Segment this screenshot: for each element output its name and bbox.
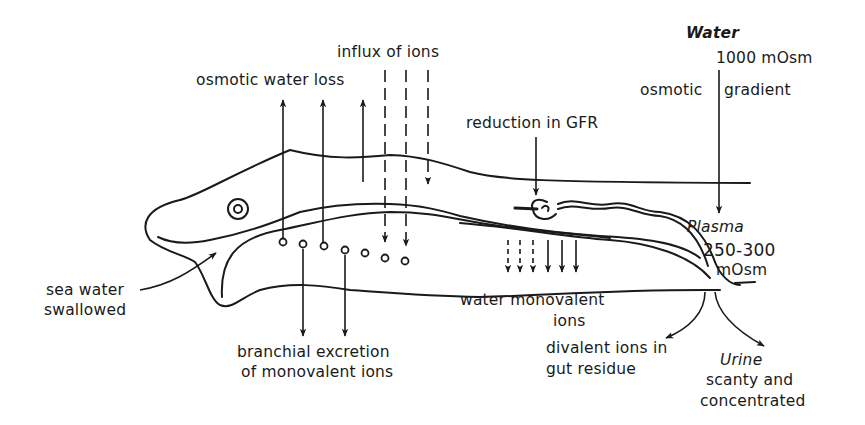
osmotic-water-loss-label: osmotic water loss — [196, 70, 345, 90]
eye-inner — [234, 205, 242, 213]
water-concentration-label: 1000 mOsm — [716, 48, 813, 68]
gill-opening-icon — [402, 258, 409, 265]
osmoregulation-diagram: influx of ions osmotic water loss reduct… — [0, 0, 865, 425]
fish-dorsal-outline — [180, 150, 750, 200]
urine-scanty-label: scanty and — [706, 370, 793, 390]
urine-label: Urine — [720, 350, 762, 370]
osmotic-label: osmotic — [640, 80, 702, 100]
plasma-label: Plasma — [687, 217, 744, 237]
water-label: Water — [686, 23, 739, 43]
gill-opening-icon — [382, 255, 389, 262]
gill-openings — [280, 239, 409, 265]
monovalent-ions-label: of monovalent ions — [241, 362, 393, 382]
gill-opening-icon — [362, 250, 369, 257]
influx-of-ions-label: influx of ions — [337, 42, 439, 62]
plasma-mosm-label: mOsm — [716, 260, 767, 280]
afferent-vessel — [515, 208, 537, 209]
gill-opening-icon — [342, 247, 349, 254]
gut-absorption-ions-label: ions — [553, 311, 586, 331]
gradient-label: gradient — [724, 80, 791, 100]
fish-tail-line — [735, 282, 755, 283]
swallowed-label: swallowed — [44, 300, 126, 320]
fish-snout — [145, 200, 705, 306]
urine-arrow-icon — [715, 292, 764, 346]
glomerulus-inner — [542, 206, 548, 211]
divalent-ions-label: divalent ions in — [546, 338, 667, 358]
urine-concentrated-label: concentrated — [700, 391, 806, 411]
eye-outer — [228, 199, 248, 219]
gut-upper-wall — [460, 223, 710, 278]
gut-absorption-label: water monovalent — [460, 290, 605, 310]
reduction-in-gfr-label: reduction in GFR — [466, 113, 598, 133]
branchial-excretion-label: branchial excretion — [237, 342, 390, 362]
sea-water-arrow-icon — [140, 253, 216, 290]
sea-water-label: sea water — [46, 280, 124, 300]
gill-opening-icon — [321, 243, 328, 250]
gill-opening-icon — [280, 239, 287, 246]
plasma-concentration-label: 250-300 — [703, 240, 775, 260]
pharynx-line — [222, 212, 610, 297]
gill-opening-icon — [300, 241, 307, 248]
divalent-ions-arrow-icon — [666, 292, 705, 338]
gut-residue-label: gut residue — [546, 359, 636, 379]
